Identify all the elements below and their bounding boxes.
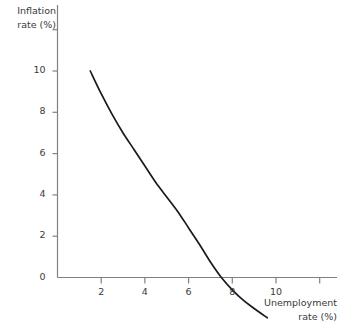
axes-group [58,5,338,278]
x-tick-label: 8 [222,286,242,297]
x-axis-title: Unemployment rate (%) [253,296,337,324]
y-tick-label: 6 [24,147,46,158]
y-tick-label: 4 [24,188,46,199]
y-axis-title: Inflation rate (%) [4,4,56,32]
y-tick-label: 10 [24,64,46,75]
chart-canvas [0,0,341,331]
y-axis-ticks [53,30,58,237]
phillips-curve-chart: Inflation rate (%) Unemployment rate (%)… [0,0,341,331]
x-tick-label: 2 [91,286,111,297]
phillips-curve-line [90,71,267,318]
x-tick-label: 10 [266,286,286,297]
y-tick-label: 8 [24,105,46,116]
y-tick-label: 2 [24,229,46,240]
y-tick-label: 0 [24,271,46,282]
x-tick-label: 6 [179,286,199,297]
series-group [90,71,267,318]
x-axis-ticks [101,278,320,284]
x-tick-label: 4 [135,286,155,297]
